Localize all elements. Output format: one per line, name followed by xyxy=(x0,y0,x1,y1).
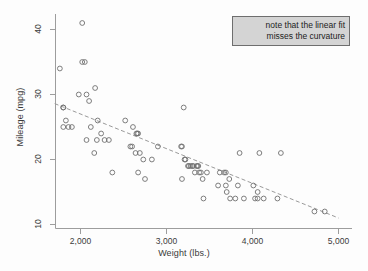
scatter-point xyxy=(76,92,81,97)
scatter-point xyxy=(123,118,128,123)
scatter-point xyxy=(205,170,210,175)
tick-marks xyxy=(50,30,339,235)
scatter-point xyxy=(235,183,240,188)
scatter-point xyxy=(94,138,99,143)
scatter-point xyxy=(131,125,136,130)
scatter-point xyxy=(84,92,89,97)
scatter-point xyxy=(180,177,185,182)
y-tick-label: 30 xyxy=(33,84,43,104)
fit-line-segment xyxy=(55,104,339,218)
scatter-point xyxy=(216,183,221,188)
scatter-point xyxy=(80,21,85,26)
scatter-point xyxy=(93,86,98,91)
x-tick-label: 2,000 xyxy=(70,236,91,246)
scatter-point xyxy=(57,66,62,71)
scatter-point xyxy=(237,151,242,156)
scatter-point xyxy=(63,118,68,123)
scatter-point xyxy=(70,125,75,130)
scatter-point xyxy=(228,196,233,201)
scatter-point xyxy=(278,151,283,156)
scatter-point xyxy=(261,196,266,201)
data-points xyxy=(57,21,327,214)
x-tick-label: 4,000 xyxy=(242,236,263,246)
scatter-point xyxy=(201,196,206,201)
y-tick-label: 10 xyxy=(33,214,43,234)
scatter-point xyxy=(227,177,232,182)
y-tick-label: 20 xyxy=(33,149,43,169)
annotation-box: note that the linear fit misses the curv… xyxy=(232,16,350,46)
scatter-point xyxy=(141,157,146,162)
scatter-point xyxy=(242,196,247,201)
scatter-point xyxy=(312,209,317,214)
scatter-point xyxy=(233,196,238,201)
scatter-point xyxy=(110,170,115,175)
scatter-point xyxy=(87,99,92,104)
scatter-point xyxy=(181,105,186,110)
scatter-point xyxy=(136,170,141,175)
scatter-point xyxy=(84,138,89,143)
linear-fit-line xyxy=(55,104,339,218)
scatter-point xyxy=(61,125,66,130)
scatter-point xyxy=(200,177,205,182)
scatter-point xyxy=(143,177,148,182)
x-tick-label: 5,000 xyxy=(328,236,349,246)
scatter-point xyxy=(223,183,228,188)
scatter-point xyxy=(257,151,262,156)
scatter-point xyxy=(251,183,256,188)
scatter-point xyxy=(88,125,93,130)
scatter-plot-figure: Weight (lbs.) Mileage (mpg) 2,0003,0004,… xyxy=(0,0,368,271)
annotation-line-1: note that the linear fit xyxy=(237,20,345,31)
scatter-point xyxy=(149,157,154,162)
y-tick-label: 40 xyxy=(33,19,43,39)
annotation-line-2: misses the curvature xyxy=(237,31,345,42)
scatter-point xyxy=(275,196,280,201)
y-axis-title: Mileage (mpg) xyxy=(15,57,25,177)
scatter-point xyxy=(255,190,260,195)
x-tick-label: 3,000 xyxy=(156,236,177,246)
scatter-point xyxy=(92,151,97,156)
scatter-point xyxy=(224,190,229,195)
x-axis-title: Weight (lbs.) xyxy=(0,248,368,258)
scatter-point xyxy=(99,131,104,136)
